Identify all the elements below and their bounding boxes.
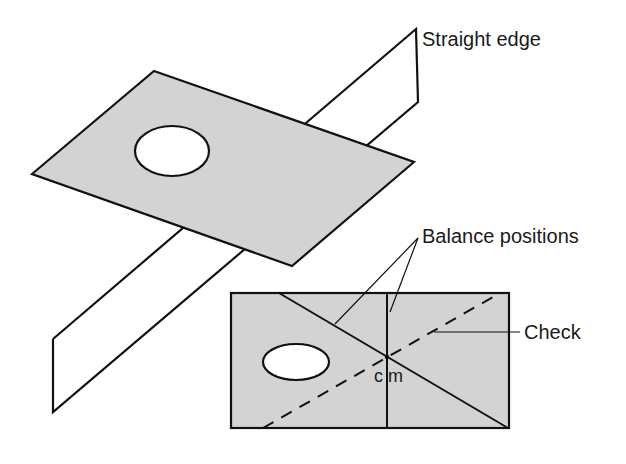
plate-on-edge <box>32 71 414 266</box>
plate-outline <box>32 71 414 266</box>
check-label: Check <box>524 321 582 343</box>
straight-edge-label: Straight edge <box>422 28 541 50</box>
balance-plate-hole <box>263 344 329 380</box>
balance-positions-label: Balance positions <box>422 225 579 247</box>
balance-plate: c m <box>231 293 509 428</box>
cm-label: c m <box>374 366 403 386</box>
plate-hole <box>135 126 209 176</box>
center-of-mass-point <box>385 355 389 359</box>
center-of-mass-diagram: c m Straight edge Balance positions Chec… <box>0 0 626 464</box>
